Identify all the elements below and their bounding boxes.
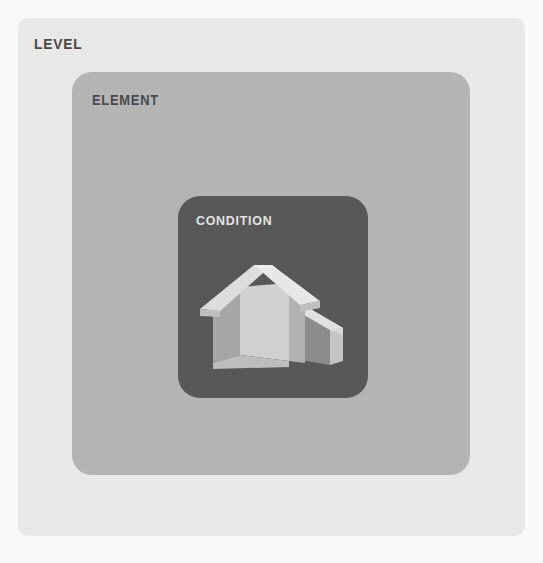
level-box[interactable]: LEVEL ELEMENT CONDITION <box>18 18 525 536</box>
level-label: LEVEL <box>34 35 83 52</box>
diagram-canvas: LEVEL ELEMENT CONDITION <box>0 0 543 563</box>
condition-label: CONDITION <box>196 213 272 228</box>
condition-box[interactable]: CONDITION <box>178 196 368 398</box>
element-box[interactable]: ELEMENT CONDITION <box>72 72 470 475</box>
house-icon <box>192 243 352 373</box>
element-label: ELEMENT <box>92 92 159 108</box>
